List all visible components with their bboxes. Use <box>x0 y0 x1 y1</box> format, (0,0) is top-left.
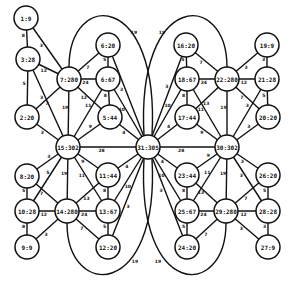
edge-weight-label: 8 <box>103 188 106 193</box>
node-label: 17:44 <box>178 114 196 121</box>
edge-weight-label: 5 <box>103 57 106 62</box>
edge-weight-label: 11 <box>198 107 204 112</box>
edge-weight-label: 28 <box>178 148 184 153</box>
edge-weight-label: 9 <box>200 130 203 135</box>
graph-node: 27:9 <box>256 235 280 259</box>
node-label: 28:28 <box>259 208 277 215</box>
graph-node: 12:20 <box>96 235 120 259</box>
graph-node: 6:20 <box>96 33 120 57</box>
edge-weight-label: 19 <box>155 259 161 264</box>
edge-weight-label: 3 <box>263 224 266 229</box>
edge-weight-label: 13 <box>198 190 204 195</box>
edge-weight-label: 19 <box>159 30 165 35</box>
edge-weight-label: 3 <box>47 154 50 159</box>
edge-31-24 <box>148 147 187 247</box>
edge-weight-label: 10 <box>158 173 164 178</box>
edge-weight-label: 11 <box>79 173 85 178</box>
edge-weight-label: 9 <box>89 124 92 129</box>
edge-weight-label: 12 <box>41 68 47 73</box>
edge-weight-label: 5 <box>22 188 25 193</box>
node-label: 30:302 <box>216 144 238 151</box>
edge-weight-label: 5 <box>181 57 184 62</box>
graph-node: 16:20 <box>174 33 198 57</box>
edge-weight-label: 13 <box>83 196 89 201</box>
edge-weight-label: 3 <box>41 130 44 135</box>
edge-weight-label: 7 <box>80 226 83 231</box>
edge-weight-label: 3 <box>120 87 123 92</box>
node-label: 3:28 <box>21 56 36 63</box>
graph-node: 11:44 <box>96 163 120 187</box>
node-label: 13:67 <box>99 208 117 215</box>
graph-node: 18:67 <box>175 67 199 91</box>
node-label: 14:280 <box>56 208 78 215</box>
graph-node: 24:20 <box>175 235 199 259</box>
edge-weight-label: 3 <box>240 173 243 178</box>
edge-weight-label: 28 <box>98 148 104 153</box>
edge-12-31 <box>108 147 148 247</box>
graph-node: 15:302 <box>56 135 80 159</box>
graph-node: 22:280 <box>215 67 239 91</box>
graph-node: 17:44 <box>175 105 199 129</box>
graph-node: 7:280 <box>57 67 81 91</box>
edge-weight-label: 3 <box>40 95 43 100</box>
edge-weight-label: 4 <box>161 159 164 164</box>
edge-weight-label: 9 <box>81 159 84 164</box>
node-label: 12:20 <box>99 244 117 251</box>
graph-node: 19:9 <box>255 33 279 57</box>
node-label: 6:20 <box>101 42 116 49</box>
edge-weight-label: 7 <box>204 232 207 237</box>
graph-node: 5:44 <box>98 105 122 129</box>
edge-weight-label: 3 <box>262 57 265 62</box>
edge-weight-label: 5 <box>46 170 49 175</box>
edge-weight-label: 8 <box>22 224 25 229</box>
graph-node: 23:44 <box>175 163 199 187</box>
node-label: 22:280 <box>216 76 238 83</box>
graph-diagram: 8312537372412195381110942828573248101113… <box>0 0 293 290</box>
edge-weight-label: 10 <box>164 103 170 108</box>
edge-weight-label: 8 <box>182 93 185 98</box>
edge-weight-label: 5 <box>23 81 26 86</box>
edge-weight-label: 7 <box>240 95 243 100</box>
node-label: 21:28 <box>258 76 276 83</box>
graph-node: 30:302 <box>215 135 239 159</box>
node-label: 15:302 <box>57 144 79 151</box>
graph-node: 14:280 <box>55 199 79 223</box>
edge-weight-label: 19 <box>132 259 138 264</box>
edge-weight-label: 3 <box>126 204 129 209</box>
graph-node: 2:20 <box>15 105 39 129</box>
edge-weight-label: 24 <box>200 212 206 217</box>
node-label: 1:9 <box>21 15 32 22</box>
graph-node: 20:20 <box>256 105 280 129</box>
node-label: 23:44 <box>178 172 196 179</box>
graph-node: 21:28 <box>255 67 279 91</box>
edge-weight-label: 3 <box>241 159 244 164</box>
edge-weight-label: 24 <box>81 212 87 217</box>
edge-weight-label: 3 <box>240 226 243 231</box>
node-label: 8:20 <box>20 173 35 180</box>
node-label: 10:28 <box>18 208 36 215</box>
edge-weight-label: 5 <box>103 224 106 229</box>
graph-node: 6:67 <box>96 67 120 91</box>
graph-node: 1:9 <box>14 6 38 30</box>
node-label: 11:44 <box>99 172 117 179</box>
graph-node: 9:9 <box>15 235 39 259</box>
edge-weight-label: 24 <box>82 80 88 85</box>
edge-weight-label: 12 <box>41 212 47 217</box>
edge-weight-label: 7 <box>86 65 89 70</box>
edge-weight-label: 19 <box>220 105 226 110</box>
edge-weight-label: 8 <box>22 33 25 38</box>
edge-weight-label: 9 <box>207 153 210 158</box>
node-label: 18:67 <box>178 76 196 83</box>
node-label: 20:20 <box>259 114 277 121</box>
edge-weight-label: 3 <box>165 84 168 89</box>
edge-weight-label: 5 <box>182 224 185 229</box>
edge-weight-label: 8 <box>104 93 107 98</box>
edge-weight-label: 12 <box>240 212 246 217</box>
node-label: 16:20 <box>177 42 195 49</box>
node-label: 31:305 <box>137 144 159 151</box>
edge-weight-label: 3 <box>160 188 163 193</box>
edge-weight-label: 13 <box>203 101 209 106</box>
edge-weight-label: 3 <box>40 43 43 48</box>
graph-node: 13:67 <box>96 199 120 223</box>
edge-weight-label: 19 <box>61 171 67 176</box>
